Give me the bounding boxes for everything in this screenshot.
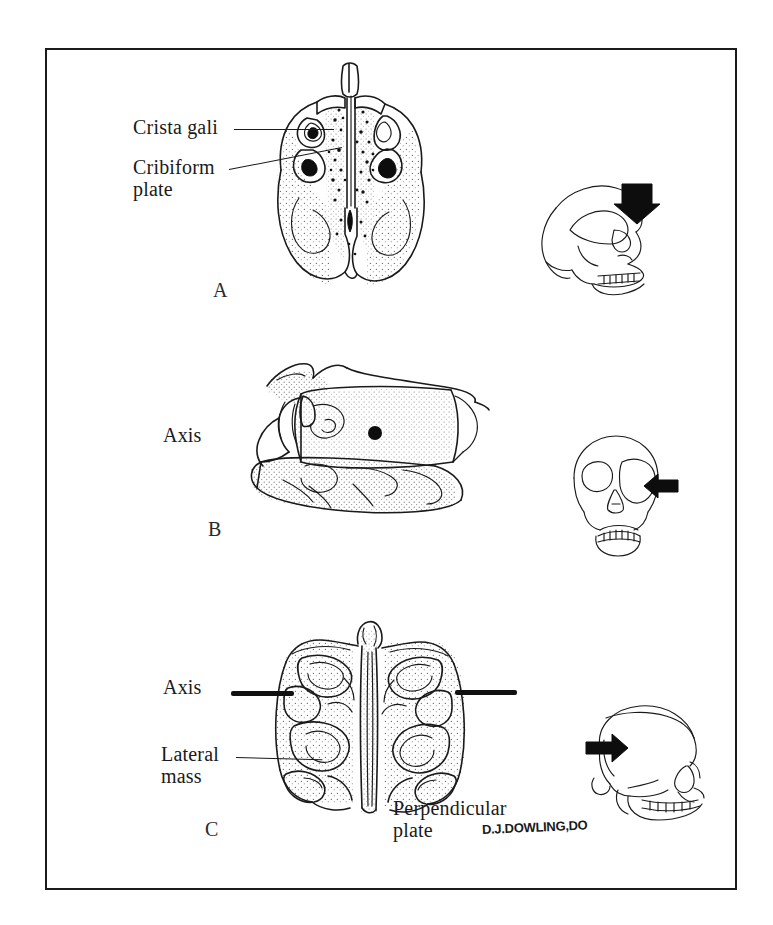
axis-dash-left bbox=[231, 691, 294, 696]
leader-crista-gali bbox=[234, 129, 334, 130]
label-axis-b: Axis bbox=[163, 424, 202, 446]
label-cribiform-plate-line1: Cribiform bbox=[133, 156, 215, 178]
panel-b-ethmoid-lateral bbox=[243, 356, 498, 531]
panel-a-ethmoid-superior bbox=[255, 58, 445, 308]
panel-letter-a: A bbox=[213, 279, 227, 302]
axis-point-dot-b bbox=[368, 426, 382, 440]
figure-canvas: Crista gali Cribiform plate A bbox=[0, 0, 773, 925]
label-cribiform-plate-line2: plate bbox=[133, 178, 173, 200]
panel-letter-b: B bbox=[208, 518, 221, 541]
label-perpendicular-plate-line2: plate bbox=[393, 819, 433, 841]
label-perpendicular-plate-line1: Perpendicular bbox=[393, 797, 507, 819]
panel-letter-c: C bbox=[205, 818, 218, 841]
label-lateral-mass-line1: Lateral bbox=[161, 743, 219, 765]
label-crista-gali: Crista gali bbox=[133, 116, 218, 138]
skull-inset-a bbox=[518, 172, 693, 297]
label-lateral-mass-line2: mass bbox=[161, 765, 202, 787]
skull-inset-b bbox=[552, 432, 682, 560]
label-axis-c: Axis bbox=[163, 676, 202, 698]
panel-c-ethmoid-anterior bbox=[258, 618, 483, 818]
axis-dash-right bbox=[455, 690, 517, 695]
skull-inset-c bbox=[570, 700, 730, 822]
